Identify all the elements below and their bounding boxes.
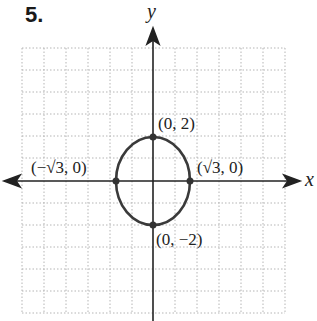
point-label-bottom: (0, −2): [156, 230, 202, 250]
point-label-left: (−√3, 0): [31, 158, 87, 178]
graph-figure: 5. y x (0, 2) (√3, 0) (−√3, 0) (0, −2): [0, 0, 317, 321]
x-axis-label: x: [305, 168, 314, 191]
point-label-right: (√3, 0): [197, 158, 243, 178]
point-label-top: (0, 2): [158, 114, 195, 134]
y-axis-label: y: [147, 0, 156, 23]
